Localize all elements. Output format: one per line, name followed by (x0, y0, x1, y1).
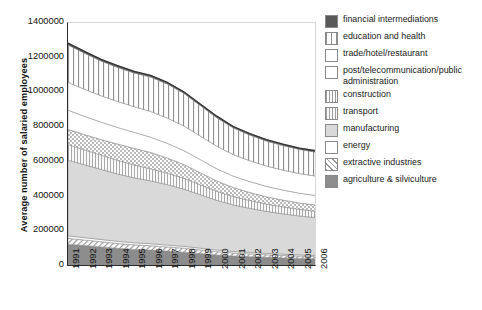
x-axis-tick-label: 1991 (71, 248, 81, 269)
legend-swatch-icon (325, 141, 338, 154)
legend-item-label: education and health (343, 31, 425, 42)
x-axis-tick-label: 1998 (187, 248, 197, 269)
x-axis-tick-label: 1997 (170, 248, 180, 269)
chart-legend: financial intermediationseducation and h… (325, 14, 482, 191)
x-axis-tick-label: 1996 (154, 248, 164, 269)
x-axis-tick-label: 1992 (88, 248, 98, 269)
legend-item[interactable]: energy (325, 140, 482, 154)
legend-swatch-icon (325, 158, 338, 171)
x-axis-tick-label: 1999 (203, 248, 213, 269)
x-axis-tick-label: 2000 (220, 248, 230, 269)
x-axis-tick-label: 2001 (237, 248, 247, 269)
legend-item-label: construction (343, 89, 391, 100)
legend-swatch-icon (325, 32, 338, 45)
legend-item[interactable]: extractive industries (325, 157, 482, 171)
x-axis-tick-label: 1995 (137, 248, 147, 269)
legend-item[interactable]: post/telecommunication/public administra… (325, 65, 482, 86)
legend-item[interactable]: education and health (325, 31, 482, 45)
legend-item[interactable]: financial intermediations (325, 14, 482, 28)
legend-item-label: extractive industries (343, 157, 421, 168)
legend-item[interactable]: construction (325, 89, 482, 103)
x-axis-tick-label: 2002 (253, 248, 263, 269)
x-axis-tick-label: 1994 (121, 248, 131, 269)
legend-item[interactable]: manufacturing (325, 123, 482, 137)
legend-item[interactable]: trade/hotel/restaurant (325, 48, 482, 62)
legend-item-label: transport (343, 106, 378, 117)
x-axis-tick-label: 2005 (303, 248, 313, 269)
legend-item-label: financial intermediations (343, 14, 438, 25)
legend-item-label: agriculture & silviculture (343, 174, 437, 185)
x-axis-tick-label: 1993 (104, 248, 114, 269)
legend-item-label: post/telecommunication/public administra… (343, 65, 477, 86)
legend-swatch-icon (325, 107, 338, 120)
x-axis-tick-label: 2003 (270, 248, 280, 269)
legend-swatch-icon (325, 90, 338, 103)
chart-figure: Average number of salaried employees 020… (0, 0, 482, 310)
legend-item[interactable]: transport (325, 106, 482, 120)
legend-item-label: trade/hotel/restaurant (343, 48, 427, 59)
legend-swatch-icon (325, 66, 338, 79)
x-axis-tick-label: 2006 (319, 248, 329, 269)
legend-item[interactable]: agriculture & silviculture (325, 174, 482, 188)
legend-swatch-icon (325, 15, 338, 28)
legend-swatch-icon (325, 175, 338, 188)
legend-swatch-icon (325, 49, 338, 62)
legend-item-label: energy (343, 140, 370, 151)
legend-item-label: manufacturing (343, 123, 399, 134)
x-axis-tick-label: 2004 (286, 248, 296, 269)
legend-swatch-icon (325, 124, 338, 137)
